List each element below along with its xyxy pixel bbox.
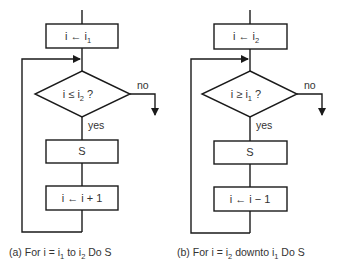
update-box-label: i ← i + 1	[62, 192, 103, 204]
flowchart-a: i ← i1 i ≤ i2 ? no yes S i ← i + 1 (a) F…	[9, 10, 155, 261]
no-branch-arrow	[130, 94, 155, 115]
yes-label: yes	[256, 119, 272, 131]
no-label: no	[137, 79, 149, 91]
caption-b: (b) For i = i2 downto i1 Do S	[177, 246, 305, 261]
flowchart-b: i ← i2 i ≥ i1 ? no yes S i ← i − 1 (b) F…	[177, 10, 322, 261]
flowchart-diagram: i ← i1 i ≤ i2 ? no yes S i ← i + 1 (a) F…	[0, 0, 343, 268]
yes-label: yes	[88, 119, 104, 131]
caption-a: (a) For i = i1 to i2 Do S	[9, 246, 112, 261]
body-box-label: S	[246, 146, 253, 158]
body-box-label: S	[78, 145, 85, 157]
update-box-label: i ← i − 1	[230, 193, 271, 205]
no-label: no	[304, 79, 316, 91]
no-branch-arrow	[297, 94, 322, 115]
